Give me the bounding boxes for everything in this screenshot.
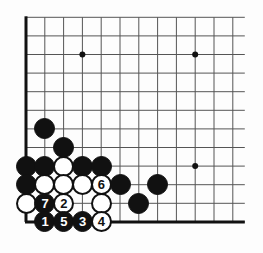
stone-move-5: 5	[53, 211, 74, 232]
stone-layer: 6721534	[0, 0, 263, 253]
stone-move-4: 4	[91, 211, 112, 232]
stone-move-number: 6	[98, 178, 105, 191]
stone-move-number: 3	[79, 215, 86, 228]
stone-black	[34, 118, 55, 139]
stone-move-3: 3	[72, 211, 93, 232]
go-board-diagram: 6721534	[0, 0, 263, 253]
stone-black	[110, 174, 131, 195]
stone-move-number: 5	[60, 215, 67, 228]
stone-black	[128, 193, 149, 214]
stone-move-number: 7	[41, 196, 48, 209]
stone-black	[53, 137, 74, 158]
stone-move-number: 1	[41, 215, 48, 228]
stone-white	[72, 174, 93, 195]
stone-move-number: 4	[98, 215, 105, 228]
stone-move-number: 2	[60, 196, 67, 209]
stone-black	[147, 174, 168, 195]
